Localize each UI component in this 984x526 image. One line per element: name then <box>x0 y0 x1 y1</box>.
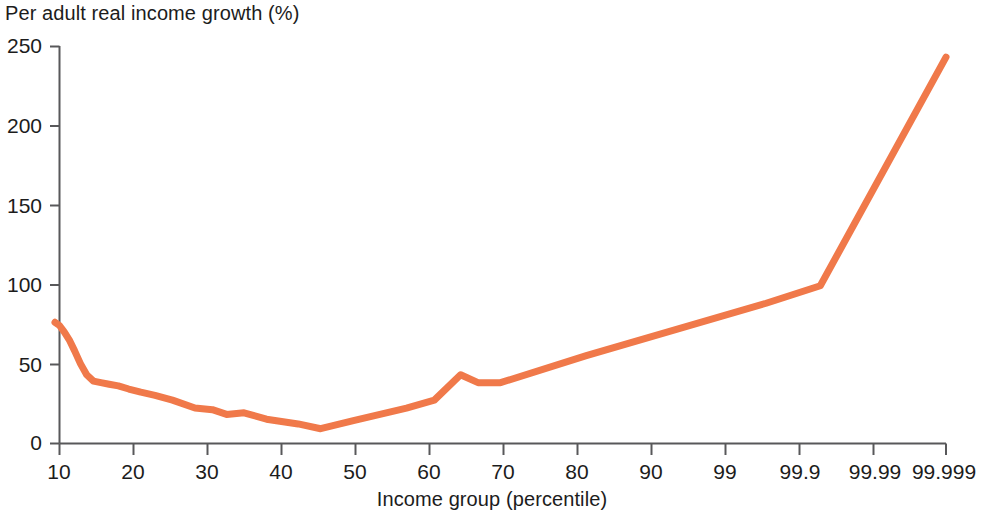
y-tick-label-100: 100 <box>0 273 42 297</box>
x-tick-label-40: 40 <box>269 460 292 484</box>
x-tick-label-90: 90 <box>639 460 662 484</box>
chart-canvas <box>0 0 984 526</box>
x-tick-label-99-9: 99.9 <box>780 460 821 484</box>
x-axis-ticks <box>60 444 947 456</box>
x-tick-label-99: 99 <box>713 460 736 484</box>
y-tick-label-200: 200 <box>0 114 42 138</box>
y-tick-label-150: 150 <box>0 194 42 218</box>
x-tick-label-50: 50 <box>343 460 366 484</box>
x-tick-label-60: 60 <box>417 460 440 484</box>
x-axis-title: Income group (percentile) <box>0 488 984 511</box>
x-tick-label-70: 70 <box>491 460 514 484</box>
x-tick-label-10: 10 <box>47 460 70 484</box>
x-tick-label-20: 20 <box>121 460 144 484</box>
y-tick-label-250: 250 <box>0 34 42 58</box>
x-tick-label-99-99: 99.99 <box>849 460 902 484</box>
income-growth-chart: Per adult real income growth (%) <box>0 0 984 526</box>
x-tick-label-80: 80 <box>565 460 588 484</box>
y-axis-ticks <box>50 47 60 444</box>
x-tick-label-99-999: 99.999 <box>912 460 976 484</box>
x-tick-label-30: 30 <box>195 460 218 484</box>
y-tick-label-0: 0 <box>0 431 42 455</box>
series-line-per-adult-real-income-growth <box>55 57 946 429</box>
y-tick-label-50: 50 <box>0 353 42 377</box>
